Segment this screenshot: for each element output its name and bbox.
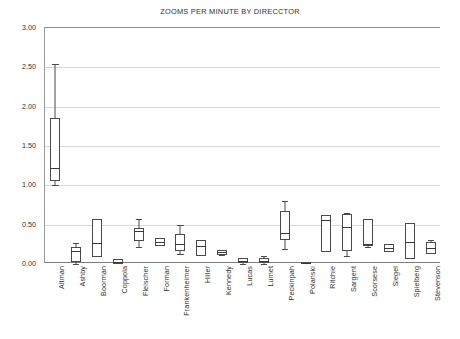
x-tick-label: Kennedy — [224, 266, 233, 295]
x-tick-label: Siegel — [391, 266, 400, 287]
whisker-upper — [138, 219, 139, 228]
box-iqr — [92, 219, 102, 257]
whisker-cap-lower — [219, 255, 225, 256]
x-tick-label: Spielberg — [412, 266, 421, 297]
boxplot-coppola — [108, 28, 129, 262]
x-tick-label: Altman — [57, 266, 66, 289]
whisker-cap-lower — [344, 256, 350, 257]
x-tick-label: Lucas — [245, 266, 254, 286]
median-line — [175, 244, 185, 245]
whisker-cap-upper — [261, 256, 267, 257]
median-line — [321, 220, 331, 221]
whisker-cap-lower — [365, 247, 371, 248]
y-tick-label: 0.00 — [0, 259, 36, 268]
median-line — [50, 168, 60, 169]
median-line — [405, 242, 415, 243]
box-iqr — [363, 219, 373, 246]
x-tick-label: Frankenheimer — [182, 266, 191, 316]
x-tick-label: Coppola — [120, 266, 129, 293]
median-line — [384, 248, 394, 249]
y-tick-label: 1.00 — [0, 180, 36, 189]
x-axis: AltmanAshbyBoormanCoppolaFleischerForman… — [44, 264, 440, 336]
x-tick-label: Scorsese — [370, 266, 379, 297]
boxplot-sargent — [337, 28, 358, 262]
y-axis: 0.000.501.001.502.002.503.00 — [0, 27, 40, 263]
x-tick-label: Peckinpah — [287, 266, 296, 300]
x-tick-label: Fleischer — [141, 266, 150, 296]
x-tick-label: Polanski — [308, 266, 317, 294]
chart-title: ZOOMS PER MINUTE BY DIRECCTOR — [0, 7, 460, 16]
y-tick-label: 2.00 — [0, 101, 36, 110]
whisker-cap-upper — [136, 219, 142, 220]
box-iqr — [134, 228, 144, 241]
x-tick-label: Sargent — [349, 266, 358, 292]
whisker-cap-lower — [177, 254, 183, 255]
box-iqr — [175, 234, 185, 251]
boxplot-forman — [149, 28, 170, 262]
median-line — [280, 233, 290, 234]
median-line — [113, 262, 123, 263]
x-tick-label: Forman — [162, 266, 171, 291]
median-line — [217, 252, 227, 253]
whisker-cap-lower — [52, 185, 58, 186]
whisker-upper — [55, 64, 56, 118]
boxplot-lumet — [253, 28, 274, 262]
boxplot-altman — [45, 28, 66, 262]
box-iqr — [50, 118, 60, 181]
box-iqr — [71, 247, 81, 263]
x-tick-label: Hiller — [203, 266, 212, 283]
box-iqr — [196, 240, 206, 257]
whisker-cap-upper — [282, 201, 288, 202]
boxplot-lucas — [233, 28, 254, 262]
median-line — [196, 246, 206, 247]
whisker-upper — [180, 225, 181, 234]
boxplot-frankenheimer — [170, 28, 191, 262]
boxplot-siegel — [378, 28, 399, 262]
x-tick-label: Ritchie — [328, 266, 337, 289]
boxplot-polanski — [295, 28, 316, 262]
whisker-lower — [284, 240, 285, 249]
x-tick-label: Lumet — [266, 266, 275, 286]
median-line — [71, 251, 81, 252]
boxplot-fleischer — [128, 28, 149, 262]
x-tick-label: Ashby — [78, 266, 87, 286]
whisker-cap-upper — [73, 243, 79, 244]
boxplot-boorman — [87, 28, 108, 262]
plot-area — [44, 27, 440, 263]
boxplot-hiller — [191, 28, 212, 262]
boxplot-stevenson — [420, 28, 441, 262]
y-tick-label: 1.50 — [0, 141, 36, 150]
x-tick-label: Stevenson — [433, 266, 442, 301]
median-line — [134, 231, 144, 232]
box-iqr — [280, 211, 290, 240]
boxplot-ritchie — [316, 28, 337, 262]
median-line — [426, 248, 436, 249]
median-line — [342, 227, 352, 228]
boxplot-scorsese — [358, 28, 379, 262]
boxplot-ashby — [66, 28, 87, 262]
whisker-cap-lower — [136, 247, 142, 248]
whisker-cap-upper — [177, 225, 183, 226]
whisker-upper — [284, 201, 285, 211]
median-line — [259, 261, 269, 262]
y-tick-label: 0.50 — [0, 219, 36, 228]
x-tick-label: Boorman — [99, 266, 108, 296]
boxplot-peckinpah — [274, 28, 295, 262]
median-line — [238, 261, 248, 262]
boxplot-chart: ZOOMS PER MINUTE BY DIRECCTOR 0.000.501.… — [0, 0, 460, 339]
whisker-cap-upper — [52, 64, 58, 65]
box-iqr — [342, 214, 352, 250]
median-line — [92, 243, 102, 244]
boxplot-kennedy — [212, 28, 233, 262]
boxplot-spielberg — [399, 28, 420, 262]
median-line — [363, 244, 373, 245]
whisker-cap-lower — [282, 249, 288, 250]
y-tick-label: 2.50 — [0, 62, 36, 71]
median-line — [155, 242, 165, 243]
y-tick-label: 3.00 — [0, 23, 36, 32]
